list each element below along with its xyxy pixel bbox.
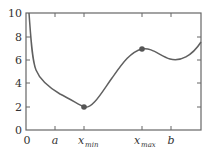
plot-frame (26, 13, 201, 130)
ytick-label: 6 (15, 54, 22, 67)
ytick-label: 2 (15, 101, 22, 114)
y-tick-labels: 10 8 6 4 2 0 (8, 7, 22, 137)
x-ticks (55, 13, 171, 130)
min-point-marker (81, 104, 87, 110)
max-point-marker (139, 46, 145, 52)
chart-canvas: 10 8 6 4 2 0 0 a x min x max b (0, 0, 210, 152)
ytick-label: 10 (8, 7, 22, 20)
function-curve (29, 13, 201, 107)
xtick-label-origin: 0 (24, 134, 31, 147)
xtick-label-a: a (52, 134, 59, 147)
x-tick-labels: 0 a x min x max b (24, 134, 175, 149)
y-ticks (26, 37, 201, 107)
ytick-label: 8 (15, 31, 22, 44)
ytick-label: 0 (15, 124, 22, 137)
xtick-label-b: b (167, 134, 174, 147)
ytick-label: 4 (15, 77, 22, 90)
xtick-label-xmin-sub: min (85, 141, 99, 149)
xtick-label-xmax: x (134, 134, 141, 147)
xtick-label-xmin: x (78, 134, 85, 147)
xtick-label-xmax-sub: max (141, 141, 156, 149)
